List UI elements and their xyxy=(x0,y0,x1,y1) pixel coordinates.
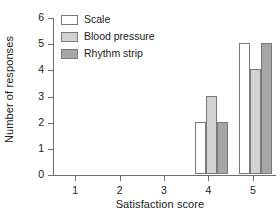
x-tick xyxy=(253,176,254,181)
x-tick-label: 1 xyxy=(63,184,87,197)
legend-label: Scale xyxy=(84,13,110,26)
x-tick xyxy=(164,176,165,181)
y-axis-label: Number of responses xyxy=(2,2,16,177)
x-tick-label: 5 xyxy=(241,184,265,197)
bar xyxy=(239,43,250,174)
x-tick-label: 4 xyxy=(196,184,220,197)
y-tick: 5 xyxy=(48,44,53,45)
y-tick-label: 1 xyxy=(38,142,44,155)
y-tick-label: 5 xyxy=(38,37,44,50)
x-tick-label: 2 xyxy=(108,184,132,197)
bar xyxy=(250,69,261,174)
legend-item: Rhythm strip xyxy=(61,47,155,60)
legend-label: Blood pressure xyxy=(84,30,155,43)
y-tick-label: 2 xyxy=(38,116,44,129)
legend-swatch xyxy=(61,49,78,59)
legend-swatch xyxy=(61,32,78,42)
y-tick: 2 xyxy=(48,123,53,124)
chart-legend: ScaleBlood pressureRhythm strip xyxy=(61,13,155,64)
y-axis-line xyxy=(53,18,54,176)
legend-item: Scale xyxy=(61,13,155,26)
bar xyxy=(206,96,217,175)
y-tick-label: 0 xyxy=(38,168,44,181)
y-tick: 6 xyxy=(48,18,53,19)
y-tick: 1 xyxy=(48,149,53,150)
y-tick-label: 4 xyxy=(38,63,44,76)
x-tick-label: 3 xyxy=(152,184,176,197)
y-tick: 4 xyxy=(48,70,53,71)
x-tick xyxy=(120,176,121,181)
bar-chart: Number of responses Satisfaction score 0… xyxy=(0,0,280,221)
x-tick xyxy=(208,176,209,181)
legend-label: Rhythm strip xyxy=(84,47,143,60)
bar xyxy=(261,43,272,174)
legend-item: Blood pressure xyxy=(61,30,155,43)
x-tick xyxy=(75,176,76,181)
bar xyxy=(195,122,206,174)
bar xyxy=(217,122,228,174)
x-axis-label: Satisfaction score xyxy=(44,198,276,210)
legend-swatch xyxy=(61,15,78,25)
y-tick-label: 6 xyxy=(38,11,44,24)
y-tick: 3 xyxy=(48,97,53,98)
y-tick: 0 xyxy=(48,175,53,176)
y-tick-label: 3 xyxy=(38,90,44,103)
